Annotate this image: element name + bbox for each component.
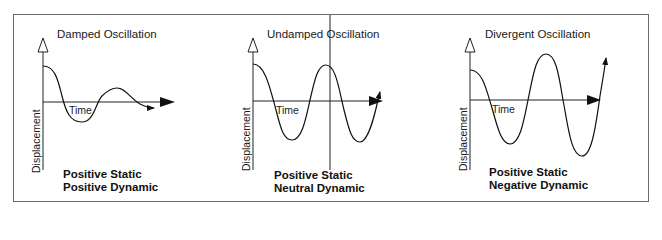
divergent-curve bbox=[470, 54, 606, 156]
displacement-axis-label: Displacement bbox=[30, 109, 42, 173]
y-axis-hollow-arrow-icon bbox=[248, 38, 258, 52]
stability-static-label: Positive Static bbox=[489, 166, 568, 179]
panel-title-damped: Damped Oscillation bbox=[57, 28, 157, 40]
time-axis-label: Time bbox=[276, 104, 299, 116]
time-axis-arrow-icon bbox=[369, 96, 383, 106]
time-axis-label: Time bbox=[492, 103, 515, 115]
panel-damped bbox=[38, 38, 175, 170]
y-axis-hollow-arrow-icon bbox=[38, 38, 48, 52]
time-axis-label: Time bbox=[69, 104, 92, 116]
stability-dynamic-label: Negative Dynamic bbox=[489, 179, 588, 192]
undamped-curve bbox=[253, 64, 380, 142]
y-axis-hollow-arrow-icon bbox=[465, 38, 475, 52]
panel-title-divergent: Divergent Oscillation bbox=[485, 28, 590, 40]
stability-dynamic-label: Neutral Dynamic bbox=[274, 182, 365, 195]
stability-dynamic-label: Positive Dynamic bbox=[63, 181, 158, 194]
displacement-axis-label: Displacement bbox=[240, 107, 252, 171]
time-axis-arrow-icon bbox=[160, 97, 175, 107]
damped-curve bbox=[43, 66, 154, 122]
panel-divergent bbox=[465, 38, 606, 170]
panel-title-undamped: Undamped Oscillation bbox=[267, 28, 380, 40]
stability-static-label: Positive Static bbox=[63, 168, 142, 181]
displacement-axis-label: Displacement bbox=[457, 107, 469, 171]
stability-static-label: Positive Static bbox=[274, 169, 353, 182]
